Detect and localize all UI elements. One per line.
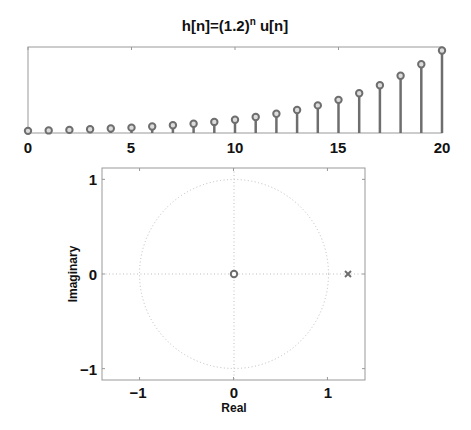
- stem-marker: [87, 126, 93, 132]
- stem-marker: [232, 116, 238, 122]
- top-x-tick-labels: 0 5 10 15 20: [24, 139, 451, 156]
- stem-marker: [397, 73, 403, 79]
- stem-marker: [66, 127, 72, 133]
- stem-marker: [211, 119, 217, 125]
- stem-marker: [294, 107, 300, 113]
- bottom-y-tick-labels: 1 0 −1: [80, 171, 97, 378]
- x-tick-label: 5: [127, 139, 135, 156]
- stem-marker: [335, 97, 341, 103]
- x-tick-label: 1: [324, 384, 332, 401]
- stem-marker: [108, 125, 114, 131]
- stem-marker: [439, 47, 445, 53]
- y-tick-label: 0: [89, 266, 97, 283]
- stem-marker: [149, 123, 155, 129]
- stem-marker: [273, 111, 279, 117]
- stem-marker: [418, 61, 424, 67]
- y-tick-label: −1: [80, 361, 97, 378]
- x-tick-label: 15: [330, 139, 347, 156]
- x-tick-label: 0: [24, 139, 32, 156]
- bottom-x-tick-labels: −1 0 1: [129, 384, 332, 401]
- x-tick-label: −1: [129, 384, 146, 401]
- stem-series: [25, 47, 445, 134]
- stem-marker: [377, 82, 383, 88]
- pole-zero-plot: −1 0 1 1 0 −1 Real Imaginary: [66, 168, 365, 415]
- x-tick-label: 20: [434, 139, 451, 156]
- stem-marker: [356, 90, 362, 96]
- stem-marker: [128, 124, 134, 130]
- zero-marker: [231, 271, 237, 277]
- stem-marker: [25, 128, 31, 134]
- stem-marker: [190, 121, 196, 127]
- y-tick-label: 1: [89, 171, 97, 188]
- impulse-response-plot: h[n]=(1.2)n u[n] 0 5 10 15 20: [24, 16, 451, 156]
- stem-marker: [253, 114, 259, 120]
- x-axis-label: Real: [221, 401, 246, 415]
- y-axis-label: Imaginary: [66, 245, 80, 302]
- pole-marker: [345, 271, 351, 277]
- figure: h[n]=(1.2)n u[n] 0 5 10 15 20 −1 0 1: [0, 0, 471, 430]
- x-tick-label: 10: [227, 139, 244, 156]
- x-tick-label: 0: [230, 384, 238, 401]
- plot-title: h[n]=(1.2)n u[n]: [182, 16, 289, 34]
- stem-marker: [315, 102, 321, 108]
- stem-marker: [46, 127, 52, 133]
- stem-marker: [170, 122, 176, 128]
